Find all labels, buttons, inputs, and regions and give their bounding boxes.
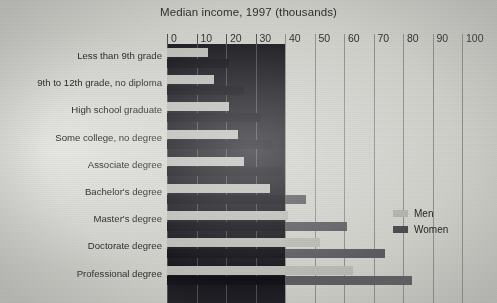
x-tick-label-20: 20	[230, 32, 242, 44]
bar-men	[167, 157, 244, 166]
category-label: Master's degree	[94, 213, 163, 224]
bar-women	[167, 86, 244, 95]
bar-women-outer	[285, 276, 412, 285]
x-tick-label-80: 80	[407, 32, 419, 44]
gridline-70	[374, 34, 375, 303]
bar-women	[167, 140, 273, 149]
category-label: Associate degree	[88, 159, 162, 170]
category-label: Less than 9th grade	[77, 50, 162, 61]
chart-title: Median income, 1997 (thousands)	[0, 6, 497, 18]
bar-men	[167, 130, 238, 139]
gridline-100	[462, 34, 463, 303]
legend-label-women: Women	[414, 224, 448, 235]
bar-men	[167, 184, 270, 193]
x-tick-label-0: 0	[171, 32, 177, 44]
legend-label-men: Men	[414, 208, 433, 219]
category-label: Professional degree	[77, 268, 162, 279]
x-tick-label-70: 70	[378, 32, 390, 44]
x-tick-label-30: 30	[260, 32, 272, 44]
bar-women	[167, 59, 229, 68]
bar-women-inner	[167, 276, 285, 285]
legend-swatch-women	[393, 226, 408, 233]
gridline-50	[315, 34, 316, 303]
bar-women	[167, 113, 261, 122]
bar-men	[167, 75, 214, 84]
bar-women	[167, 167, 282, 176]
bar-women-outer	[285, 195, 306, 204]
gridline-60	[344, 34, 345, 303]
bar-women-inner	[167, 249, 285, 258]
category-label: Doctorate degree	[88, 240, 162, 251]
bar-women-outer	[285, 249, 385, 258]
bar-women-inner	[167, 222, 285, 231]
x-tick-label-90: 90	[437, 32, 449, 44]
gridline-90	[433, 34, 434, 303]
category-label: High school graduate	[71, 104, 162, 115]
bar-men	[167, 102, 229, 111]
legend-item-men: Men	[393, 208, 448, 219]
x-tick-label-60: 60	[348, 32, 360, 44]
plot-area: 0102030405060708090100	[167, 34, 462, 303]
bar-men-outer	[285, 211, 288, 220]
category-label: 9th to 12th grade, no diploma	[37, 77, 162, 88]
x-tick-label-100: 100	[466, 32, 484, 44]
chart-page: Median income, 1997 (thousands) Less tha…	[0, 0, 497, 303]
x-tick-label-10: 10	[201, 32, 213, 44]
category-label: Bachelor's degree	[85, 186, 162, 197]
legend: Men Women	[393, 208, 448, 240]
bar-men-outer	[285, 238, 320, 247]
bar-men-outer	[285, 266, 353, 275]
bar-men-inner	[167, 266, 285, 275]
category-axis: Less than 9th grade9th to 12th grade, no…	[0, 34, 162, 303]
legend-swatch-men	[393, 210, 408, 217]
bar-men-inner	[167, 211, 285, 220]
gridline-80	[403, 34, 404, 303]
category-label: Some college, no degree	[55, 132, 162, 143]
gridline-40	[285, 34, 286, 303]
bar-men-inner	[167, 238, 285, 247]
x-tick-label-40: 40	[289, 32, 301, 44]
legend-item-women: Women	[393, 224, 448, 235]
bar-women-outer	[285, 222, 347, 231]
bar-women-inner	[167, 195, 285, 204]
x-tick-label-50: 50	[319, 32, 331, 44]
bar-men	[167, 48, 208, 57]
